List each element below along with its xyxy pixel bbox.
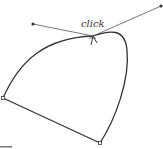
click-label: click <box>81 18 105 29</box>
anchor-left[interactable] <box>2 97 5 100</box>
anchor-bottom[interactable] <box>99 142 102 145</box>
bezier-diagram: click <box>0 0 163 149</box>
handle-point-right[interactable] <box>159 4 162 7</box>
handle-point-left[interactable] <box>31 22 34 25</box>
pen-cursor-icon <box>89 36 97 45</box>
line-bottom-to-left <box>3 98 100 143</box>
corner-mark <box>0 146 12 148</box>
curve-left-to-top <box>3 36 93 98</box>
curve-top-to-bottom <box>93 32 127 143</box>
